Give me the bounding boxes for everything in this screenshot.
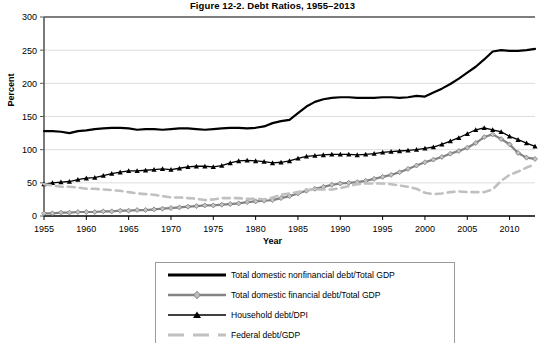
legend-swatch-household xyxy=(166,308,228,322)
data-point-marker xyxy=(152,207,157,212)
x-tick-label: 1990 xyxy=(330,224,350,234)
legend-swatch-financial xyxy=(166,288,228,302)
data-point-marker xyxy=(533,156,538,161)
x-tick-label: 1955 xyxy=(34,224,54,234)
legend-item-0: Total domestic nonfinancial debt/Total G… xyxy=(166,265,395,285)
chart-legend: Total domestic nonfinancial debt/Total G… xyxy=(155,262,455,343)
legend-swatch-nonfinancial xyxy=(166,268,228,282)
data-point-marker xyxy=(50,211,55,216)
x-tick-label: 2000 xyxy=(415,224,435,234)
data-point-marker xyxy=(202,203,207,208)
x-tick-label: 1960 xyxy=(76,224,96,234)
x-tick-label: 2005 xyxy=(457,224,477,234)
legend-item-3: Federal debt/GDP xyxy=(166,325,300,343)
legend-label-nonfinancial: Total domestic nonfinancial debt/Total G… xyxy=(231,270,395,280)
data-point-marker xyxy=(101,209,106,214)
legend-item-2: Household debt/DPI xyxy=(166,305,308,325)
data-point-marker xyxy=(194,204,199,209)
data-point-marker xyxy=(389,172,394,177)
y-tick-label: 0 xyxy=(32,211,37,221)
data-point-marker xyxy=(168,206,173,211)
data-point-marker xyxy=(75,210,80,215)
legend-item-1: Total domestic financial debt/Total GDP xyxy=(166,285,381,305)
data-point-marker xyxy=(92,210,97,215)
legend-label-federal: Federal debt/GDP xyxy=(231,330,300,340)
data-point-marker xyxy=(245,200,250,205)
y-tick-label: 150 xyxy=(22,112,37,122)
x-tick-label: 1970 xyxy=(161,224,181,234)
data-point-marker xyxy=(380,174,385,179)
series-line-1 xyxy=(44,134,535,213)
legend-swatch-federal xyxy=(166,328,228,342)
series-line-0 xyxy=(44,49,535,133)
data-point-marker xyxy=(372,176,377,181)
series-line-3 xyxy=(44,164,535,200)
data-point-marker xyxy=(118,208,123,213)
x-tick-label: 1975 xyxy=(203,224,223,234)
data-point-marker xyxy=(338,181,343,186)
data-point-marker xyxy=(67,210,72,215)
x-tick-label: 1985 xyxy=(288,224,308,234)
data-point-marker xyxy=(143,208,148,213)
y-tick-label: 250 xyxy=(22,46,37,56)
x-tick-label: 1965 xyxy=(119,224,139,234)
data-point-marker xyxy=(126,208,131,213)
plot-area: 0501001502002503001955196019651970197519… xyxy=(0,0,545,250)
data-point-marker xyxy=(236,201,241,206)
data-point-marker xyxy=(211,203,216,208)
data-point-marker xyxy=(185,204,190,209)
data-point-marker xyxy=(507,134,512,139)
y-tick-label: 200 xyxy=(22,79,37,89)
data-point-marker xyxy=(279,196,284,201)
x-tick-label: 2010 xyxy=(500,224,520,234)
data-point-marker xyxy=(135,208,140,213)
y-tick-label: 100 xyxy=(22,145,37,155)
data-point-marker xyxy=(58,210,63,215)
data-point-marker xyxy=(431,157,436,162)
data-point-marker xyxy=(177,205,182,210)
data-point-marker xyxy=(160,206,165,211)
data-point-marker xyxy=(42,211,47,216)
x-tick-label: 1980 xyxy=(246,224,266,234)
legend-label-financial: Total domestic financial debt/Total GDP xyxy=(231,290,381,300)
data-point-marker xyxy=(219,202,224,207)
data-point-marker xyxy=(228,202,233,207)
y-tick-label: 300 xyxy=(22,12,37,22)
y-tick-label: 50 xyxy=(27,178,37,188)
x-tick-label: 1995 xyxy=(373,224,393,234)
legend-label-household: Household debt/DPI xyxy=(231,310,308,320)
data-point-marker xyxy=(109,209,114,214)
data-point-marker xyxy=(84,210,89,215)
series-line-2 xyxy=(44,128,535,184)
chart-figure: Figure 12-2. Debt Ratios, 1955–2013 Perc… xyxy=(0,0,545,343)
data-point-marker xyxy=(346,180,351,185)
